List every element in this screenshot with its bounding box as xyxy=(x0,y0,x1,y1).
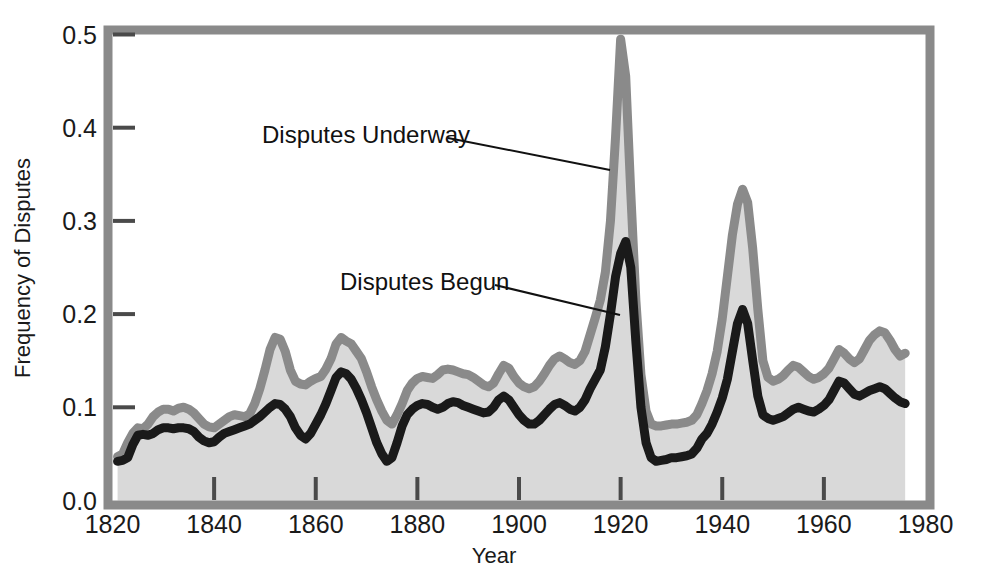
disputes-underway-label: Disputes Underway xyxy=(262,121,470,148)
y-tick-label: 0.5 xyxy=(62,21,97,49)
x-tick-label: 1880 xyxy=(390,510,446,538)
disputes-begun-label: Disputes Begun xyxy=(340,268,509,295)
x-tick-label: 1960 xyxy=(796,510,852,538)
y-tick-label: 0.3 xyxy=(62,207,97,235)
x-tick-label: 1900 xyxy=(491,510,547,538)
y-tick-label: 0.2 xyxy=(62,300,97,328)
x-tick-label: 1820 xyxy=(85,510,141,538)
chart-container: 0.00.10.20.30.40.5 182018401860188019001… xyxy=(0,0,988,581)
x-tick-label: 1840 xyxy=(186,510,242,538)
frequency-of-disputes-chart: 0.00.10.20.30.40.5 182018401860188019001… xyxy=(0,0,988,581)
x-axis-tick-labels: 182018401860188019001920194019601980 xyxy=(85,510,954,538)
y-tick-label: 0.4 xyxy=(62,114,97,142)
x-tick-label: 1980 xyxy=(898,510,954,538)
x-tick-label: 1940 xyxy=(694,510,750,538)
y-axis-title: Frequency of Disputes xyxy=(10,158,35,378)
y-tick-label: 0.1 xyxy=(62,393,97,421)
x-tick-label: 1860 xyxy=(288,510,344,538)
x-axis-title: Year xyxy=(472,543,516,568)
x-tick-label: 1920 xyxy=(593,510,649,538)
